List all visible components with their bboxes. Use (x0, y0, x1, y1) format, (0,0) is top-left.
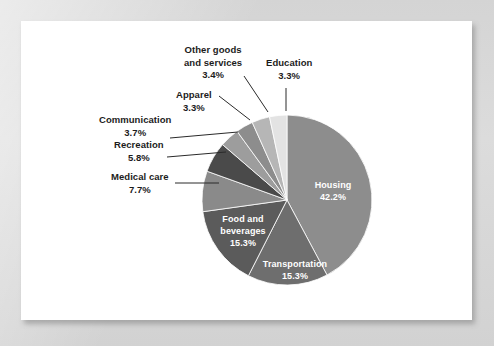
outside-label-communication-name: Communication (99, 114, 171, 127)
outside-label-education-value: 3.3% (266, 70, 312, 83)
outside-label-other-goods-line1: Other goods (184, 44, 242, 57)
slice-label-food-line2: beverages (220, 226, 265, 236)
outside-label-medical-care-value: 7.7% (111, 184, 169, 197)
outside-label-recreation: Recreation 5.8% (114, 139, 164, 164)
outside-label-communication-value: 3.7% (99, 127, 171, 140)
outside-label-other-goods-value: 3.4% (184, 69, 242, 82)
leader-line-communication (170, 132, 238, 138)
outside-label-education-name: Education (266, 57, 312, 70)
outside-label-communication: Communication 3.7% (99, 114, 171, 139)
slice-label-housing-name: Housing (315, 180, 352, 190)
outside-label-medical-care: Medical care 7.7% (111, 171, 169, 196)
slice-label-transportation-name: Transportation (263, 259, 327, 269)
slice-label-food-value: 15.3% (230, 238, 256, 248)
outside-label-apparel-name: Apparel (176, 89, 212, 102)
outside-label-recreation-value: 5.8% (114, 152, 164, 165)
pie-chart: Housing 42.2% Transportation 15.3% Food … (0, 0, 494, 346)
outside-label-recreation-name: Recreation (114, 139, 164, 152)
outside-label-other-goods: Other goods and services 3.4% (184, 44, 242, 82)
outside-label-apparel-value: 3.3% (176, 102, 212, 115)
slice-label-housing-value: 42.2% (320, 192, 346, 202)
outside-label-education: Education 3.3% (266, 57, 312, 82)
leader-line-other-goods (244, 76, 268, 112)
slice-label-transportation-value: 15.3% (282, 271, 308, 281)
outside-label-medical-care-name: Medical care (111, 171, 169, 184)
slice-label-food-line1: Food and (222, 214, 263, 224)
pie-chart-svg: Housing 42.2% Transportation 15.3% Food … (0, 0, 494, 346)
leader-line-apparel (219, 96, 250, 120)
outside-label-other-goods-line2: and services (184, 57, 242, 70)
outside-label-apparel: Apparel 3.3% (176, 89, 212, 114)
